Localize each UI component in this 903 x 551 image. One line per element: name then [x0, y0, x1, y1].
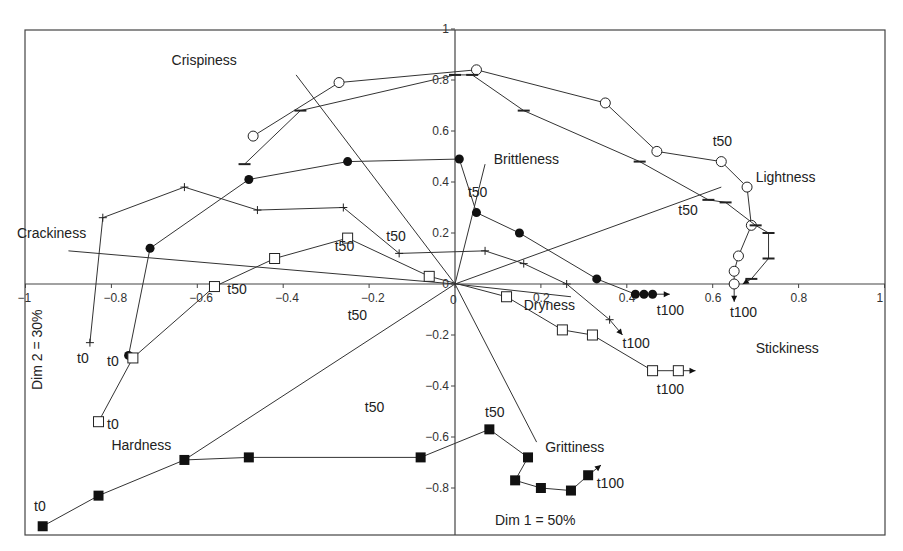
- time-label: t0: [77, 350, 89, 366]
- data-point: [648, 290, 657, 299]
- data-point: [244, 175, 253, 184]
- y-tick-label: −0.6: [425, 430, 449, 444]
- data-point: [472, 208, 481, 217]
- vector-label-grittiness: Grittiness: [545, 439, 604, 455]
- x-tick-label: −0.2: [361, 291, 385, 305]
- x-tick-label: −0.8: [103, 291, 127, 305]
- time-label: t100: [730, 304, 757, 320]
- y-tick-label: −0.4: [425, 379, 449, 393]
- data-point: [424, 271, 434, 281]
- data-point: [587, 330, 597, 340]
- data-point: [600, 98, 610, 108]
- x-tick-label: 0.8: [791, 291, 808, 305]
- data-point: [146, 244, 155, 253]
- vector-label-dryness: Dryness: [524, 297, 575, 313]
- time-label: t100: [597, 475, 624, 491]
- x-tick-label: 0.6: [705, 291, 722, 305]
- data-point: [455, 155, 464, 164]
- time-label: t50: [365, 399, 385, 415]
- data-point: [248, 131, 258, 141]
- vector-label-stickiness: Stickiness: [756, 340, 819, 356]
- vector-label-crackiness: Crackiness: [17, 225, 86, 241]
- data-point: [716, 157, 726, 167]
- x-tick-label: 1: [877, 291, 884, 305]
- time-label: t100: [623, 335, 650, 351]
- y-tick-label: 0.4: [432, 175, 449, 189]
- data-point: [471, 65, 481, 75]
- data-point: [536, 483, 546, 493]
- y-tick-label: 0.2: [432, 226, 449, 240]
- data-point: [566, 486, 576, 496]
- data-point: [742, 182, 752, 192]
- data-point: [557, 325, 567, 335]
- data-point: [515, 229, 524, 238]
- data-point: [128, 353, 138, 363]
- vector-label-crispiness: Crispiness: [172, 52, 237, 68]
- data-point: [652, 146, 662, 156]
- vector-label-lightness: Lightness: [756, 169, 816, 185]
- y-tick-label: 0.6: [432, 124, 449, 138]
- vector-label-hardness: Hardness: [111, 437, 171, 453]
- data-point: [244, 452, 254, 462]
- data-point: [733, 251, 743, 261]
- data-point: [592, 274, 601, 283]
- y-tick-label: 1: [442, 22, 449, 36]
- data-point: [729, 266, 739, 276]
- y-tick-label: −0.2: [425, 328, 449, 342]
- data-point: [209, 282, 219, 292]
- data-point: [502, 292, 512, 302]
- data-point: [673, 366, 683, 376]
- y-tick-label: −0.8: [425, 481, 449, 495]
- time-label: t0: [107, 416, 119, 432]
- data-point: [510, 475, 520, 485]
- time-label: t50: [348, 307, 368, 323]
- data-point: [648, 366, 658, 376]
- data-point: [270, 254, 280, 264]
- time-label: t50: [386, 228, 406, 244]
- data-point: [334, 78, 344, 88]
- time-label: t0: [34, 498, 46, 514]
- time-label: t100: [657, 302, 684, 318]
- data-point: [416, 452, 426, 462]
- data-point: [94, 417, 104, 427]
- time-label: t50: [468, 184, 488, 200]
- data-point: [583, 470, 593, 480]
- data-point: [639, 290, 648, 299]
- time-label: t50: [335, 238, 355, 254]
- data-point: [179, 455, 189, 465]
- vector-label-brittleness: Brittleness: [494, 151, 559, 167]
- time-label: t50: [227, 281, 247, 297]
- data-point: [631, 290, 640, 299]
- time-label: t0: [107, 353, 119, 369]
- data-point: [38, 521, 48, 531]
- time-label: t50: [678, 202, 698, 218]
- data-point: [94, 491, 104, 501]
- x-axis-title: Dim 1 = 50%: [495, 512, 576, 528]
- time-label: t100: [657, 381, 684, 397]
- data-point: [484, 424, 494, 434]
- x-tick-label: −0.4: [275, 291, 299, 305]
- x-tick-label: 0: [450, 293, 457, 307]
- time-label: t50: [713, 133, 733, 149]
- data-point: [729, 279, 739, 289]
- data-point: [523, 452, 533, 462]
- time-label: t50: [485, 404, 505, 420]
- y-axis-title: Dim 2 = 30%: [29, 309, 45, 390]
- pca-biplot: −1−0.8−0.6−0.4−0.200.20.40.60.8110.80.60…: [0, 0, 903, 551]
- x-tick-label: −1: [18, 291, 32, 305]
- data-point: [343, 157, 352, 166]
